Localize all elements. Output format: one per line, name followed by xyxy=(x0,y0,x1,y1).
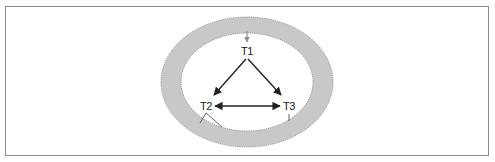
cycle-diagram xyxy=(0,0,495,162)
node-t2: T2 xyxy=(200,100,212,112)
edge-t1-t2 xyxy=(214,59,246,95)
node-t1: T1 xyxy=(241,45,253,57)
edge-t1-t3 xyxy=(248,59,281,95)
node-t3: T3 xyxy=(283,100,295,112)
